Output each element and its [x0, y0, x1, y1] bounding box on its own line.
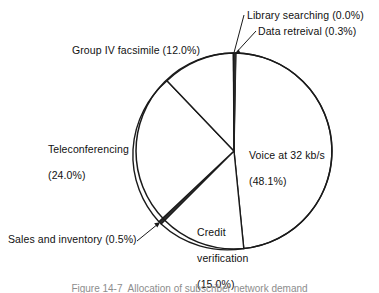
- slice-label-credit-verification-name1: Credit: [197, 226, 226, 238]
- slice-label-voice: Voice at 32 kb/s (48.1%): [237, 136, 325, 201]
- slice-label-teleconferencing-value: (24.0%): [48, 169, 85, 181]
- slice-label-library-searching: Library searching (0.0%): [247, 9, 364, 22]
- leader-line-library-searching: [234, 15, 244, 54]
- slice-label-voice-name: Voice at 32 kb/s: [249, 149, 325, 161]
- slice-label-credit-verification: Credit verification (15.0%): [185, 213, 248, 293]
- slice-label-voice-value: (48.1%): [249, 175, 286, 187]
- figure-caption: Figure 14-7 Allocation of subscriber net…: [0, 283, 379, 293]
- slice-label-data-retrieval: Data retreival (0.3%): [258, 25, 356, 38]
- slice-label-teleconferencing: Teleconferencing (24.0%): [36, 130, 129, 195]
- slice-label-credit-verification-name2: verification: [197, 252, 248, 264]
- slice-label-teleconferencing-name: Teleconferencing: [48, 143, 129, 155]
- slice-label-group-iv-facsimile: Group IV facsimile (12.0%): [72, 44, 200, 57]
- leader-arrow-data-retrieval: [235, 49, 241, 54]
- pie-chart-figure: Library searching (0.0%) Data retreival …: [0, 0, 379, 293]
- pie-slice-library-searching: [233, 53, 234, 151]
- slice-label-sales-inventory: Sales and inventory (0.5%): [8, 233, 137, 246]
- leader-line-group-iv-facsimile: [209, 45, 228, 53]
